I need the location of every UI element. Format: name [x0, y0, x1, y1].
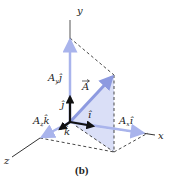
unit-vector-k-label: k̂	[64, 125, 70, 137]
svg-text:Axî: Axî	[118, 115, 134, 127]
svg-text:Ayĵ: Ayĵ	[47, 72, 63, 85]
ay-label: Ayĵ	[47, 72, 63, 85]
unit-vector-j-label: ĵ	[59, 99, 65, 110]
az-label: Azk̂	[32, 114, 49, 127]
svg-text:A: A	[81, 81, 89, 92]
y-axis-label: y	[76, 5, 83, 16]
figure-caption: (b)	[75, 164, 89, 177]
dashed-line-base-to-ax	[114, 133, 148, 152]
vector-a-label: A	[81, 80, 90, 93]
ax-label: Axî	[118, 115, 134, 127]
dashed-line-ay-to-a	[70, 38, 114, 75]
vector-components-diagram: y x z Ayĵ A Azk̂ Axî ĵ î k̂ (b)	[0, 0, 169, 182]
svg-text:Azk̂: Azk̂	[32, 114, 49, 127]
x-axis-label: x	[158, 130, 164, 141]
z-axis	[12, 138, 40, 157]
z-axis-label: z	[3, 155, 10, 166]
